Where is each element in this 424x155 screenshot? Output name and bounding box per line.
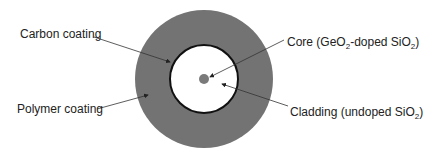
fiber-diagram: Carbon coating Polymer coating Core (GeO…: [0, 0, 424, 155]
core: [199, 74, 209, 84]
cladding-label: Cladding (undoped SiO2): [290, 105, 423, 119]
core-label: Core (GeO2-doped SiO2): [287, 35, 419, 49]
polymer-coating-label: Polymer coating: [17, 102, 103, 116]
fiber-cross-section: [0, 0, 424, 155]
carbon-coating-label: Carbon coating: [20, 27, 101, 41]
